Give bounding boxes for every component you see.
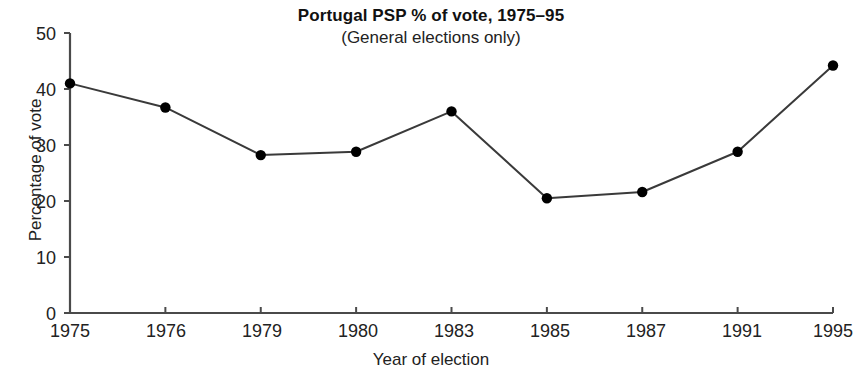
data-line: [70, 65, 833, 198]
data-markers: [65, 60, 838, 203]
data-point-marker: [542, 193, 552, 203]
data-point-marker: [732, 147, 742, 157]
data-point-marker: [160, 102, 170, 112]
data-point-marker: [828, 60, 838, 70]
data-point-marker: [65, 78, 75, 88]
axes: [64, 33, 833, 313]
chart-figure: Portugal PSP % of vote, 1975–95 (General…: [0, 0, 862, 378]
plot-area: [0, 0, 862, 378]
data-point-marker: [637, 187, 647, 197]
data-point-marker: [256, 150, 266, 160]
data-point-marker: [351, 147, 361, 157]
data-point-marker: [446, 106, 456, 116]
